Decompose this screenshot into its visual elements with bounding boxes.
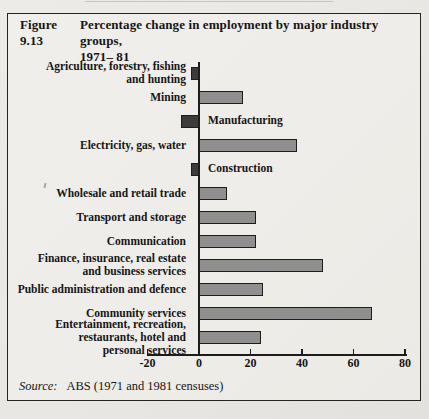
category-label: Finance, insurance, real estateand busin… [11,252,186,278]
category-label: Manufacturing [208,114,283,127]
axis-tick [147,349,149,355]
axis-tick-label: 40 [285,357,319,370]
axis-tick-label: 0 [182,357,216,370]
bar [191,163,199,176]
bar [199,139,297,152]
bar [181,115,199,128]
source-note: Source:ABS (1971 and 1981 censuses) [19,379,223,394]
axis-tick [250,349,252,355]
bar [199,283,263,296]
bar [199,187,227,200]
category-label: Wholesale and retail trade [11,187,186,200]
x-axis-line [147,354,407,356]
bar [199,331,261,344]
bar-chart: Agriculture, forestry, fishingand huntin… [0,0,429,419]
category-label: Construction [208,162,273,175]
axis-tick-label: -20 [131,357,165,370]
bar [191,67,199,80]
bar [199,259,323,272]
category-label: Communication [11,235,186,248]
axis-tick-label: 80 [388,357,422,370]
category-label: Entertainment, recreation,restaurants, h… [11,318,186,357]
bar [199,91,243,104]
axis-tick-label: 60 [337,357,371,370]
axis-tick [353,349,355,355]
bar [199,307,372,320]
category-label: Mining [11,91,186,104]
source-label: Source: [19,379,57,393]
axis-tick [301,349,303,355]
category-label: Agriculture, forestry, fishingand huntin… [11,60,186,86]
category-label: Transport and storage [11,211,186,224]
bar [199,235,256,248]
bar [199,211,256,224]
axis-tick [404,349,406,355]
category-label: Electricity, gas, water [11,139,186,152]
axis-tick [198,349,200,355]
source-text: ABS (1971 and 1981 censuses) [66,379,223,393]
axis-tick-label: 20 [234,357,268,370]
scanned-page: Figure 9.13 Percentage change in employm… [0,0,429,419]
category-label: Public administration and defence [11,283,186,296]
